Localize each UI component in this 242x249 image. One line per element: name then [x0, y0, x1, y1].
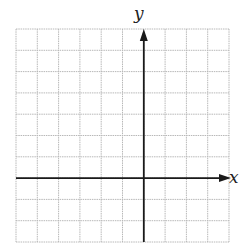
coordinate-grid [0, 0, 242, 249]
x-axis-label: x [229, 169, 239, 186]
grid-lines [16, 29, 229, 242]
y-axis-arrow-icon [140, 29, 148, 41]
y-axis-label: y [134, 5, 144, 22]
